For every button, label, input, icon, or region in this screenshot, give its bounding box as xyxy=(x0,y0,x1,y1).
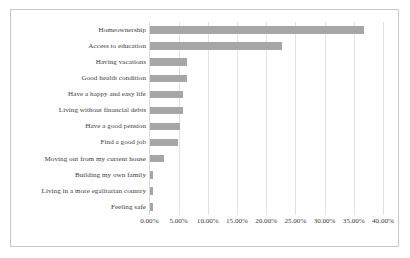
bar xyxy=(150,75,186,83)
category-axis-labels: HomeownershipAccess to educationHaving v… xyxy=(12,22,146,215)
bar-chart: HomeownershipAccess to educationHaving v… xyxy=(0,0,410,258)
category-label: Good health condition xyxy=(12,74,146,82)
bar xyxy=(150,58,186,66)
x-tick-label: 40.00% xyxy=(361,217,405,226)
bar xyxy=(150,91,183,99)
gridline-15.00% xyxy=(237,22,238,215)
gridline-35.00% xyxy=(354,22,355,215)
category-label: Find a good job xyxy=(12,138,146,146)
bar xyxy=(150,203,153,211)
bar xyxy=(150,123,179,131)
category-label: Homeownership xyxy=(12,26,146,34)
category-label: Having vacations xyxy=(12,58,146,66)
gridline-0.00% xyxy=(149,22,150,215)
category-label: Living in a more egalitarian country xyxy=(12,187,146,195)
gridline-30.00% xyxy=(325,22,326,215)
bar xyxy=(150,171,153,179)
category-label: Have a happy and easy life xyxy=(12,90,146,98)
bar xyxy=(150,187,153,195)
category-label: Have a good pension xyxy=(12,122,146,130)
bar xyxy=(150,26,363,34)
x-axis-tick-labels: 0.00%5.00%10.00%15.00%20.00%25.00%30.00%… xyxy=(0,217,410,231)
category-label: Building my own family xyxy=(12,171,146,179)
gridline-5.00% xyxy=(179,22,180,215)
bar xyxy=(150,139,178,147)
plot-area xyxy=(149,22,383,215)
category-label: Access to education xyxy=(12,42,146,50)
bar xyxy=(150,42,282,50)
category-label: Moving out from my current house xyxy=(12,155,146,163)
gridline-10.00% xyxy=(208,22,209,215)
gridline-40.00% xyxy=(383,22,384,215)
bar xyxy=(150,107,183,115)
category-label: Living without financial debts xyxy=(12,106,146,114)
category-label: Feeling safe xyxy=(12,203,146,211)
bar xyxy=(150,155,164,163)
gridline-25.00% xyxy=(295,22,296,215)
gridline-20.00% xyxy=(266,22,267,215)
chart-figure: HomeownershipAccess to educationHaving v… xyxy=(0,0,410,258)
